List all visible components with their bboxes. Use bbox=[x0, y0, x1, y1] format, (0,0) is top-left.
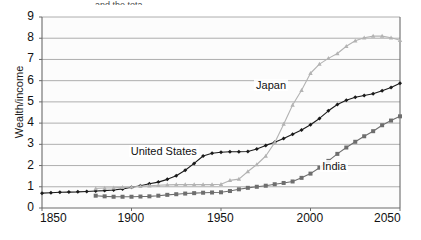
x-tick-label: 1850 bbox=[40, 211, 67, 225]
x-tick-label: 1900 bbox=[118, 211, 145, 225]
y-tick-label: 3 bbox=[8, 136, 34, 150]
plot-area bbox=[0, 0, 421, 240]
y-tick-label: 0 bbox=[8, 200, 34, 214]
cropped-header-text: and the tota bbox=[95, 0, 265, 5]
y-tick-label: 6 bbox=[8, 73, 34, 87]
y-tick-label: 2 bbox=[8, 158, 34, 172]
y-tick-label: 7 bbox=[8, 51, 34, 65]
y-tick-label: 5 bbox=[8, 94, 34, 108]
y-tick-label: 8 bbox=[8, 30, 34, 44]
series-label-india: India bbox=[320, 160, 348, 172]
x-tick-label: 2050 bbox=[374, 211, 401, 225]
y-tick-label: 1 bbox=[8, 179, 34, 193]
series-label-japan: Japan bbox=[254, 79, 288, 91]
series-label-united-states: United States bbox=[129, 145, 199, 157]
y-tick-label: 9 bbox=[8, 9, 34, 23]
y-tick-label: 4 bbox=[8, 115, 34, 129]
x-tick-label: 2000 bbox=[297, 211, 324, 225]
x-tick-label: 1950 bbox=[207, 211, 234, 225]
wealth-income-chart: and the tota Wealth/income 0123456789 18… bbox=[0, 0, 421, 240]
